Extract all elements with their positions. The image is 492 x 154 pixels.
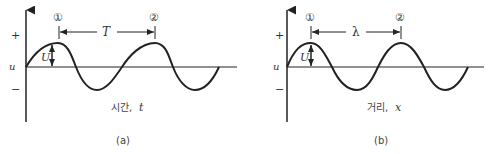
marker-2: ② [149,11,159,24]
y-plus-label: + [275,29,284,42]
marker-1: ① [305,11,315,24]
axis-label-var: t [139,101,144,114]
amplitude-label: U [41,51,51,64]
y-mid-label: u [273,61,279,72]
wave-diagram: U + u − ① ② T 시간, t (a) U + u − ① ② [0,0,492,154]
caption: (a) [116,135,130,146]
axis-label-text: 시간, [111,102,132,113]
interval-label: T [102,25,111,39]
panel-a: U + u − ① ② T 시간, t (a) [9,10,237,146]
y-minus-label: − [11,83,20,96]
y-mid-label: u [9,61,15,72]
interval-label: λ [352,25,360,39]
y-minus-label: − [275,83,284,96]
marker-1: ① [53,11,63,24]
axis-label-text: 거리, [367,102,388,113]
panel-b: U + u − ① ② λ 거리, x (b) [273,10,484,146]
marker-2: ② [395,11,405,24]
amplitude-label: U [300,51,310,64]
y-plus-label: + [11,29,20,42]
axis-label-var: x [395,101,402,114]
caption: (b) [374,135,388,146]
